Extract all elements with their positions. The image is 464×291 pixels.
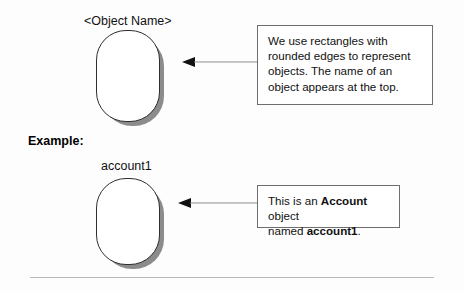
bottom-divider — [30, 277, 434, 278]
connector-shaft — [190, 202, 257, 203]
example-callout-line-1: This is an Account object — [268, 193, 390, 223]
generic-callout-connector — [182, 56, 257, 68]
example-heading: Example: — [28, 134, 84, 148]
example-callout-line1-prefix: This is an — [268, 194, 321, 207]
example-callout-box: This is an Account object named account1… — [257, 185, 400, 228]
example-object-rounded-rect — [96, 178, 160, 265]
connector-shaft — [194, 61, 257, 62]
generic-callout-text: We use rectangles with rounded edges to … — [268, 33, 423, 94]
object-notation-figure: <Object Name> We use rectangles with rou… — [0, 0, 464, 291]
example-callout-line1-suffix: object — [268, 209, 299, 222]
generic-object-shape — [96, 30, 160, 122]
generic-callout-box: We use rectangles with rounded edges to … — [257, 25, 433, 105]
example-object-shape — [96, 178, 160, 265]
example-callout-class-name: Account — [321, 194, 367, 207]
example-callout-line-2: named account1. — [268, 223, 390, 238]
generic-object-rounded-rect — [96, 30, 160, 122]
example-callout-connector — [178, 197, 257, 209]
example-callout-line2-prefix: named — [268, 224, 307, 237]
example-callout-instance-name: account1 — [307, 224, 358, 237]
example-object-name-label: account1 — [101, 159, 152, 173]
generic-object-name-label: <Object Name> — [84, 14, 172, 28]
example-callout-line2-suffix: . — [358, 224, 361, 237]
